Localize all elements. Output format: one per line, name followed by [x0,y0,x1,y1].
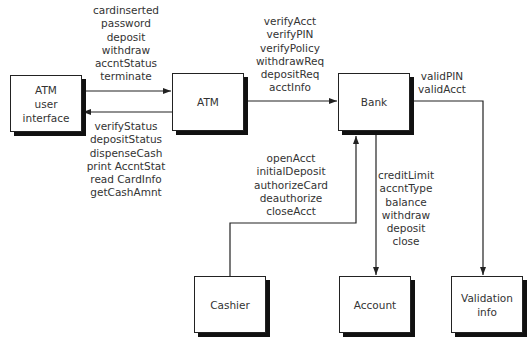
node-atm-user-interface: ATM user interface [10,75,82,132]
edge-label-atm-to-bank: verifyAcctverifyPIN verifyPolicywithdraw… [256,15,324,95]
node-label: interface [23,111,70,125]
node-label: Bank [361,95,387,109]
node-account: Account [339,276,411,333]
node-label: ATM [197,95,219,109]
node-label: Account [354,298,396,312]
edge-label-cashier-to-bank: openAcctinitialDeposit authorizeCarddeau… [254,152,328,218]
edge-label-atm-to-ui: verifyStatusdepositStatus dispenseCashpr… [87,120,166,200]
node-label: user [35,97,58,111]
node-label: Cashier [210,298,250,312]
node-bank: Bank [338,73,410,131]
node-label: Validation [461,291,513,305]
edge-label-bank-to-account: creditLimitaccntType balancewithdraw dep… [378,169,434,249]
node-cashier: Cashier [194,276,266,333]
edge-label-bank-to-validation: validPINvalidAcct [418,70,466,97]
node-validation-info: Validation info [451,276,523,333]
edge-label-ui-to-atm: cardinsertedpassword depositwithdraw acc… [93,4,159,84]
node-label: info [477,305,497,319]
node-label: ATM [35,83,57,97]
node-atm: ATM [172,73,244,131]
